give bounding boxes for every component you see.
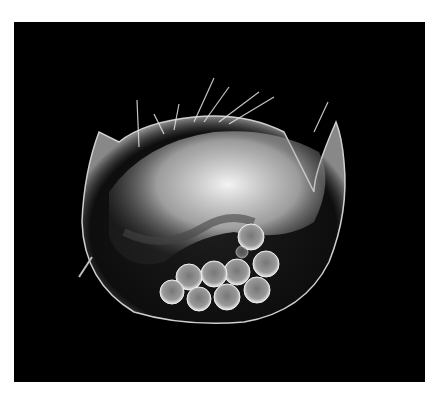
organism-illustration (14, 22, 425, 382)
microscopy-photo (14, 22, 425, 382)
